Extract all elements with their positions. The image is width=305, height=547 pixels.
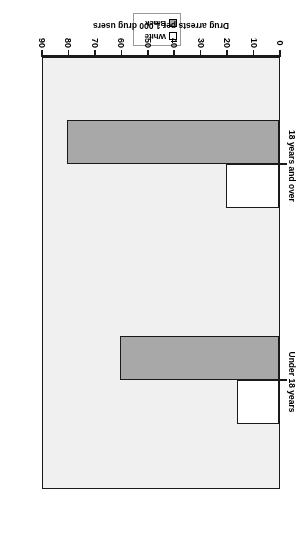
category-tick <box>280 164 287 166</box>
plot-area <box>42 57 280 489</box>
category-label: 18 years and over <box>287 106 297 226</box>
axis-tick <box>173 50 175 57</box>
axis-tick-label: 70 <box>90 38 100 48</box>
axis-tick <box>68 50 70 57</box>
axis-tick-label: 30 <box>196 38 206 48</box>
axis-tick <box>41 50 43 57</box>
axis-tick-label: 0 <box>275 40 285 45</box>
axis-tick <box>226 50 228 57</box>
axis-tick <box>147 50 149 57</box>
bar-white-1 <box>226 164 279 208</box>
value-axis: 0102030405060708090 <box>42 56 280 57</box>
axis-tick-label: 40 <box>169 38 179 48</box>
bar-white-0 <box>237 380 279 424</box>
axis-tick-label: 10 <box>249 38 259 48</box>
axis-tick-label: 80 <box>63 38 73 48</box>
axis-tick-label: 60 <box>116 38 126 48</box>
axis-tick <box>279 50 281 57</box>
plot-inner <box>43 58 279 488</box>
bar-black-1 <box>67 120 279 164</box>
axis-tick <box>121 50 123 57</box>
axis-tick <box>94 50 96 57</box>
axis-tick <box>200 50 202 57</box>
axis-tick-label: 20 <box>222 38 232 48</box>
axis-tick-label: 50 <box>143 38 153 48</box>
category-label: Under 18 years <box>287 322 297 442</box>
axis-tick-label: 90 <box>37 38 47 48</box>
axis-line <box>42 56 280 58</box>
axis-title: Drug arrests per 1,000 drug users <box>42 21 280 31</box>
chart-canvas: White Black 0102030405060708090 Drug arr… <box>0 0 305 547</box>
axis-tick <box>253 50 255 57</box>
category-tick <box>280 380 287 382</box>
bar-black-0 <box>120 336 279 380</box>
